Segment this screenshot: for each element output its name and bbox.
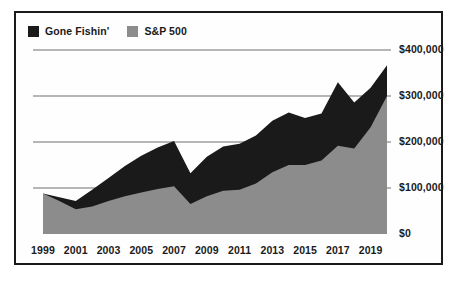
plot-area: $0$100,000$200,000$300,000$400,000 19992… xyxy=(16,13,441,263)
x-axis-tick-label: 2005 xyxy=(129,244,153,256)
x-axis-tick-label: 2003 xyxy=(97,244,121,256)
x-axis-tick-label: 2015 xyxy=(293,244,317,256)
chart-frame: Gone Fishin' S&P 500 $0$100,000$200,000$… xyxy=(14,11,443,265)
y-axis-tick-label: $0 xyxy=(399,227,411,239)
x-axis-tick-label: 2011 xyxy=(228,244,251,256)
x-axis-tick-label: 2007 xyxy=(162,244,186,256)
chart-canvas xyxy=(16,13,445,267)
y-axis-tick-label: $300,000 xyxy=(399,89,444,101)
x-axis-tick-label: 2001 xyxy=(64,244,88,256)
x-axis-tick-label: 1999 xyxy=(31,244,55,256)
x-axis-tick-label: 2013 xyxy=(260,244,284,256)
x-axis-tick-label: 2009 xyxy=(195,244,219,256)
y-axis-tick-label: $400,000 xyxy=(399,43,444,55)
x-axis-tick-label: 2017 xyxy=(326,244,350,256)
y-axis-tick-label: $200,000 xyxy=(399,135,444,147)
x-axis-tick-label: 2019 xyxy=(359,244,383,256)
y-axis-tick-label: $100,000 xyxy=(399,181,444,193)
